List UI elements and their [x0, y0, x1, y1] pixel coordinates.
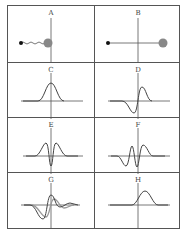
overlaid-waves-icon	[8, 173, 94, 229]
oscillation-wave-icon	[95, 118, 181, 174]
panel-g: G	[8, 173, 94, 229]
figure-grid: A B C D E	[7, 5, 180, 229]
double-peak-wave-icon	[8, 118, 94, 174]
derivative-wave-icon	[95, 63, 181, 119]
panel-c: C	[8, 63, 94, 119]
shifted-pulse-icon	[95, 173, 181, 229]
panel-b: B	[95, 6, 181, 62]
panel-a: A	[8, 6, 94, 62]
panel-f: F	[95, 118, 181, 174]
panel-e: E	[8, 118, 94, 174]
panel-d: D	[95, 63, 181, 119]
gaussian-pulse-icon	[8, 63, 94, 119]
panel-h: H	[95, 173, 181, 229]
particle-straight-icon	[95, 6, 181, 62]
particle-wavy-icon	[8, 6, 94, 62]
